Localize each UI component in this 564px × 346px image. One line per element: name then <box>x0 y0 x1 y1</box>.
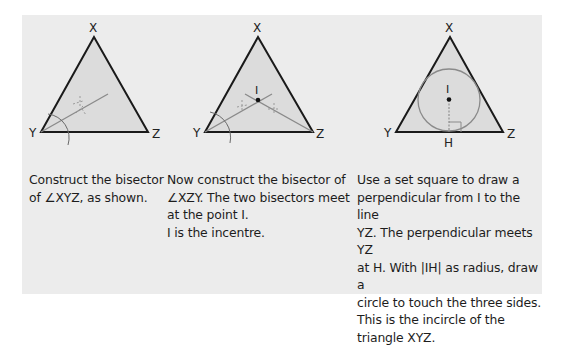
vertex-label-x: X <box>89 21 97 35</box>
caption-step-3: Use a set square to draw a perpendicular… <box>357 171 542 346</box>
caption-line: Now construct the bisector of <box>167 171 352 189</box>
caption-line: I is the incentre. <box>167 224 352 242</box>
vertex-label-y: Y <box>192 126 201 140</box>
caption-line: This is the incircle of the <box>357 311 542 329</box>
caption-line: of ∠XYZ, as shown. <box>29 189 179 207</box>
caption-step-2: Now construct the bisector of ∠XZY. The … <box>167 171 352 241</box>
point-label-i: I <box>446 83 449 96</box>
diagram-step-2: X I Y Z <box>192 21 324 143</box>
vertex-label-z: Z <box>507 127 515 141</box>
vertex-label-x: X <box>253 21 261 35</box>
vertex-label-y: Y <box>28 126 37 140</box>
vertex-label-y: Y <box>383 126 392 140</box>
incentre-point <box>447 97 452 102</box>
caption-line: at the point I. <box>167 206 352 224</box>
caption-line: circle to touch the three sides. <box>357 294 542 312</box>
caption-line: at H. With |IH| as radius, draw a <box>357 259 542 294</box>
caption-line: triangle XYZ. <box>357 329 542 346</box>
diagram-step-3: I X Y Z H <box>383 21 515 150</box>
point-label-i: I <box>255 84 258 97</box>
caption-line: perpendicular from I to the line <box>357 189 542 224</box>
caption-line: Construct the bisector <box>29 171 179 189</box>
vertex-label-z: Z <box>152 127 160 141</box>
point-label-h: H <box>444 136 453 150</box>
vertex-label-x: X <box>445 21 453 35</box>
caption-line: Use a set square to draw a <box>357 171 542 189</box>
caption-line: ∠XZY. The two bisectors meet <box>167 189 352 207</box>
vertex-label-z: Z <box>316 127 324 141</box>
triangle-xyz <box>41 37 148 132</box>
caption-step-1: Construct the bisector of ∠XYZ, as shown… <box>29 171 179 206</box>
incentre-point <box>256 98 261 103</box>
caption-line: YZ. The perpendicular meets YZ <box>357 224 542 259</box>
diagram-step-1: X Y Z <box>28 21 160 145</box>
